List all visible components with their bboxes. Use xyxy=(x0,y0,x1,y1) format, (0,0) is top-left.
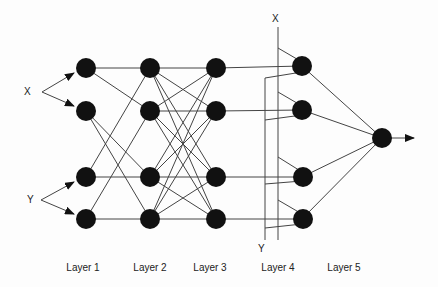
node-l2-2 xyxy=(140,101,160,121)
input-x-label: X xyxy=(24,86,31,97)
node-l2-3 xyxy=(140,167,160,187)
bus-y-label: Y xyxy=(258,243,265,254)
node-l1-2 xyxy=(76,101,96,121)
node-l1-1 xyxy=(76,58,96,78)
node-l2-4 xyxy=(140,209,160,229)
node-l4-3 xyxy=(293,167,313,187)
node-l3-2 xyxy=(206,101,226,121)
edges xyxy=(41,27,414,240)
layer-4-label: Layer 4 xyxy=(261,262,294,273)
network-graphic xyxy=(0,0,438,287)
layer-2-label: Layer 2 xyxy=(133,262,166,273)
node-l4-2 xyxy=(292,100,312,120)
node-l4-1 xyxy=(292,56,312,76)
node-l1-3 xyxy=(76,167,96,187)
node-l3-3 xyxy=(206,167,226,187)
node-l5-output xyxy=(372,128,392,148)
input-y-label: Y xyxy=(27,194,34,205)
node-l3-4 xyxy=(206,209,226,229)
node-l1-4 xyxy=(76,209,96,229)
layer-5-label: Layer 5 xyxy=(327,262,360,273)
layer-3-label: Layer 3 xyxy=(193,262,226,273)
layer-1-label: Layer 1 xyxy=(66,262,99,273)
nodes xyxy=(76,56,392,229)
node-l4-4 xyxy=(293,209,313,229)
bus-x-label: X xyxy=(272,13,279,24)
node-l3-1 xyxy=(206,58,226,78)
node-l2-1 xyxy=(140,58,160,78)
neural-network-diagram: X Y X Y Layer 1 Layer 2 Layer 3 Layer 4 … xyxy=(0,0,438,287)
